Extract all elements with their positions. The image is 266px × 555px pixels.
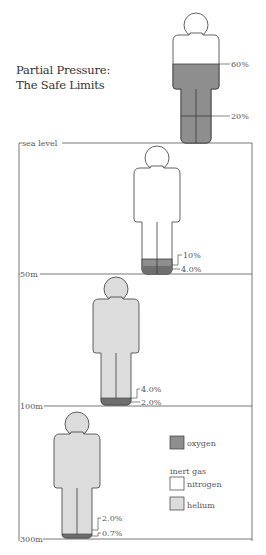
legend-heading-inert-gas: inert gas [170, 467, 206, 476]
partial-pressure-diagram: sea level 50m 100m 300m 60% 20% 10% 4.0% [0, 0, 266, 555]
label-4-percent-b: 4.0% [141, 385, 162, 394]
depth-label-sea-level: sea level [22, 139, 58, 148]
depth-label-300m: 300m [20, 535, 43, 544]
legend-label-helium: helium [187, 501, 215, 510]
legend: oxygen inert gas nitrogen helium [170, 436, 222, 510]
legend-swatch-nitrogen [170, 477, 184, 490]
figure-100m-to-300m: 2.0% 0.7% [54, 412, 123, 538]
label-4-percent: 4.0% [181, 265, 202, 274]
figure-sea-level-to-50m: 10% 4.0% [134, 146, 202, 274]
legend-swatch-oxygen [170, 436, 184, 449]
depth-label-50m: 50m [20, 270, 38, 279]
label-2-percent-b: 2.0% [102, 514, 123, 523]
label-2-percent: 2.0% [141, 398, 162, 407]
depth-label-100m: 100m [20, 402, 43, 411]
label-60-percent: 60% [231, 60, 249, 69]
oxygen-fill [62, 534, 92, 538]
label-0-7-percent: 0.7% [102, 529, 123, 538]
figure-surface-reference: 60% 20% [173, 13, 249, 143]
legend-swatch-helium [170, 497, 184, 510]
label-20-percent: 20% [231, 112, 249, 121]
figure-50m-to-100m: 4.0% 2.0% [93, 277, 162, 407]
legend-label-nitrogen: nitrogen [187, 480, 222, 489]
legend-label-oxygen: oxygen [187, 439, 216, 448]
oxygen-fill [101, 398, 131, 405]
label-10-percent: 10% [183, 251, 201, 260]
